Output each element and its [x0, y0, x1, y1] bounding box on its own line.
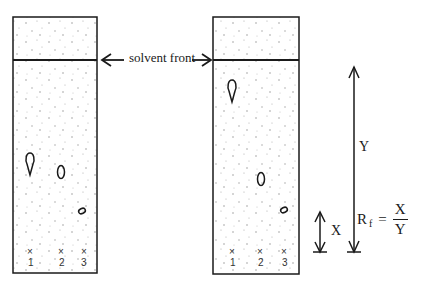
- rf-fraction: X Y: [393, 202, 408, 237]
- lane-marker-2-left: ×: [58, 246, 64, 257]
- lane-label-3-right: 3: [282, 257, 288, 268]
- lane-marker-1-left: ×: [27, 246, 33, 257]
- x-distance-arrow: [313, 212, 327, 252]
- rf-numerator: X: [393, 202, 408, 220]
- right-plate: [213, 17, 299, 274]
- lane-label-1-left: 1: [28, 257, 34, 268]
- lane-label-2-left: 2: [59, 257, 65, 268]
- lane-label-1-right: 1: [230, 257, 236, 268]
- lane-marker-1-right: ×: [229, 246, 235, 257]
- rf-equals: =: [378, 211, 386, 228]
- lane-marker-3-left: ×: [81, 246, 87, 257]
- lane-label-2-right: 2: [258, 257, 264, 268]
- x-distance-label: X: [331, 223, 341, 239]
- lane-label-3-left: 3: [81, 257, 87, 268]
- rf-denominator: Y: [395, 220, 406, 237]
- y-distance-label: Y: [359, 139, 369, 155]
- rf-symbol: R: [357, 211, 367, 228]
- solvent-front-label: solvent front: [129, 50, 195, 66]
- lane-marker-3-right: ×: [281, 246, 287, 257]
- rf-subscript: f: [369, 218, 372, 229]
- left-plate: [13, 17, 97, 273]
- rf-formula: R f = X Y: [357, 202, 408, 237]
- lane-marker-2-right: ×: [257, 246, 263, 257]
